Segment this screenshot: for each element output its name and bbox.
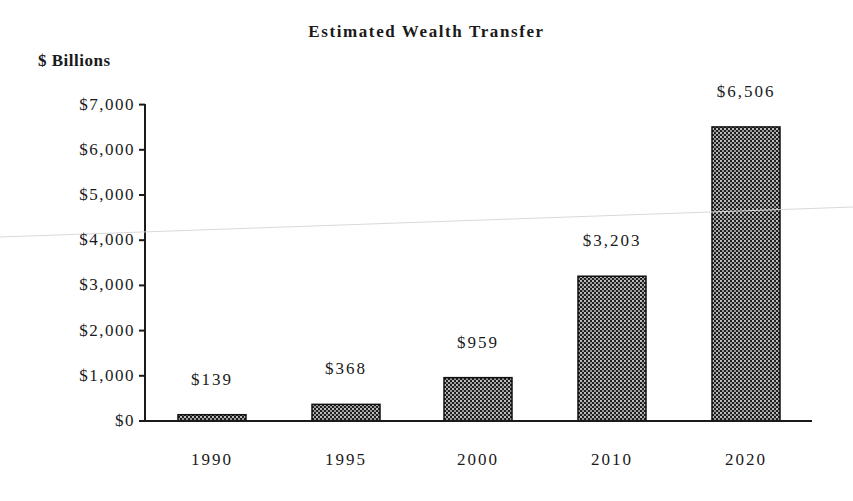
x-tick-label: 2000 xyxy=(457,450,499,470)
y-tick-label: $2,000 xyxy=(79,321,135,341)
bar-value-label: $3,203 xyxy=(583,231,642,251)
x-tick-label: 2020 xyxy=(725,450,767,470)
y-tick-label: $1,000 xyxy=(79,366,135,386)
bar-value-label: $6,506 xyxy=(717,82,776,102)
y-tick-label: $7,000 xyxy=(79,95,135,115)
y-tick-label: $6,000 xyxy=(79,140,135,160)
y-tick-label: $5,000 xyxy=(79,185,135,205)
x-tick-label: 2010 xyxy=(591,450,633,470)
y-tick-label: $4,000 xyxy=(79,230,135,250)
y-tick-label: $3,000 xyxy=(79,275,135,295)
bar-value-label: $959 xyxy=(457,333,499,353)
x-tick-label: 1990 xyxy=(191,450,233,470)
x-tick-label: 1995 xyxy=(325,450,367,470)
bar-value-label: $368 xyxy=(325,359,367,379)
bar-value-label: $139 xyxy=(191,370,233,390)
y-tick-label: $0 xyxy=(115,411,135,431)
